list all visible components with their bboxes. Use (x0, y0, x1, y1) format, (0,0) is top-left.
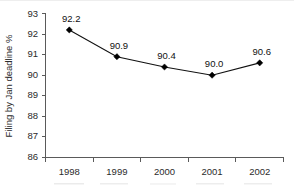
x-tick-label: 1998 (59, 166, 80, 177)
data-point-label: 90.0 (205, 58, 224, 69)
chart-canvas: Filing by Jan deadline % 93 92 91 90 89 … (0, 0, 294, 186)
y-tick-label: 88 (27, 110, 38, 121)
x-tick-label: 2000 (154, 166, 175, 177)
y-axis-title-text: Filing by Jan deadline % (3, 34, 14, 138)
y-tick-label: 86 (27, 151, 38, 162)
x-tick-label: 1999 (106, 166, 127, 177)
y-tick-label: 89 (27, 89, 38, 100)
x-tick-label: 2002 (249, 166, 270, 177)
data-point-label: 90.9 (110, 40, 129, 51)
y-tick-label: 92 (27, 28, 38, 39)
data-point-label: 92.2 (62, 13, 81, 24)
x-tick-label: 2001 (202, 166, 223, 177)
y-tick-label: 90 (27, 69, 38, 80)
data-point-label: 90.4 (157, 50, 176, 61)
data-point-label: 90.6 (252, 46, 271, 57)
y-tick-label: 93 (27, 8, 38, 19)
line-chart: Filing by Jan deadline % 93 92 91 90 89 … (0, 0, 294, 186)
chart-background (0, 0, 294, 186)
y-axis-title: Filing by Jan deadline % (3, 34, 14, 138)
y-tick-label: 91 (27, 48, 38, 59)
y-tick-label: 87 (27, 130, 38, 141)
